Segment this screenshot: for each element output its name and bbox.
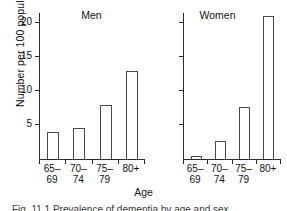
bar-women-75-79: [239, 107, 250, 159]
y-tick-5: 5: [35, 124, 40, 125]
x-label-men-65-69: 65–69: [39, 163, 65, 185]
bar-men-80+: [126, 71, 138, 159]
y-tick-10: 10: [35, 90, 40, 91]
x-label-line1: 70–: [207, 163, 231, 174]
x-label-men-80+: 80+: [118, 163, 144, 174]
figure-panel: Number per 100 population Men 5101520 65…: [0, 0, 287, 211]
y-tick-label-15: 15: [21, 50, 32, 61]
x-label-line2: 74: [207, 174, 231, 185]
chart-panel-women: Women: [183, 9, 280, 160]
x-tick-labels-women: 65–6970–7475–7980+: [183, 163, 280, 187]
bar-women-80+: [263, 16, 274, 159]
x-label-line1: 75–: [232, 163, 256, 174]
x-tick-end: [144, 159, 145, 164]
y-tick-10: [179, 90, 184, 91]
x-label-line1: 65–: [183, 163, 207, 174]
x-label-line2: 74: [65, 174, 91, 185]
plot-area-women: [184, 13, 280, 159]
x-label-line1: 75–: [92, 163, 118, 174]
bar-women-65-69: [191, 156, 202, 159]
x-label-line1: 65–: [39, 163, 65, 174]
y-tick-20: 20: [35, 22, 40, 23]
x-tick-end: [280, 159, 281, 164]
x-label-line1: 80+: [256, 163, 280, 174]
x-label-line2: 69: [39, 174, 65, 185]
y-tick-label-10: 10: [21, 84, 32, 95]
x-label-line1: 80+: [118, 163, 144, 174]
bar-women-70-74: [215, 141, 226, 159]
y-tick-20: [179, 22, 184, 23]
x-label-line2: 69: [183, 174, 207, 185]
x-label-line2: 79: [232, 174, 256, 185]
y-tick-5: [179, 124, 184, 125]
y-tick-15: 15: [35, 56, 40, 57]
y-tick-label-20: 20: [21, 16, 32, 27]
chart-panel-men: Men 5101520: [39, 9, 144, 160]
bar-men-75-79: [100, 105, 112, 159]
y-tick-label-5: 5: [26, 118, 32, 129]
x-label-line2: 79: [92, 174, 118, 185]
x-label-women-70-74: 70–74: [207, 163, 231, 185]
x-label-men-75-79: 75–79: [92, 163, 118, 185]
x-tick-labels-men: 65–6970–7475–7980+: [39, 163, 144, 187]
x-axis-title: Age: [0, 186, 287, 198]
x-label-women-75-79: 75–79: [232, 163, 256, 185]
plot-area-men: [40, 13, 144, 159]
x-label-women-65-69: 65–69: [183, 163, 207, 185]
y-tick-15: [179, 56, 184, 57]
x-label-line1: 70–: [65, 163, 91, 174]
figure-caption: Fig. 11.1 Prevalence of dementia by age …: [12, 204, 287, 211]
bar-men-65-69: [47, 132, 59, 159]
bar-men-70-74: [73, 128, 85, 159]
x-label-men-70-74: 70–74: [65, 163, 91, 185]
x-label-women-80+: 80+: [256, 163, 280, 174]
